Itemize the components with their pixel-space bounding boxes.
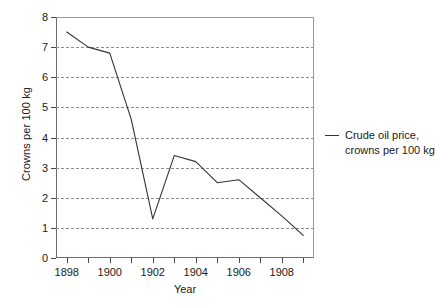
x-tick-label-1906: 1906 xyxy=(227,266,251,278)
chart-legend: Crude oil price, crowns per 100 kg xyxy=(325,128,435,158)
y-tick-label-8: 8 xyxy=(42,11,48,23)
legend-line-swatch xyxy=(325,135,339,136)
x-tick-label-1900: 1900 xyxy=(98,266,122,278)
x-tick-1906 xyxy=(239,258,240,263)
y-tick-label-4: 4 xyxy=(42,132,48,144)
x-tick-1903 xyxy=(174,258,175,263)
y-axis-title: Crowns per 100 kg xyxy=(20,59,32,209)
y-tick-0 xyxy=(51,258,56,259)
y-tick-label-1: 1 xyxy=(42,222,48,234)
y-tick-label-3: 3 xyxy=(42,162,48,174)
y-tick-label-0: 0 xyxy=(42,252,48,264)
x-tick-1904 xyxy=(196,258,197,263)
x-tick-1900 xyxy=(110,258,111,263)
x-tick-1908 xyxy=(282,258,283,263)
x-tick-1902 xyxy=(153,258,154,263)
y-tick-label-2: 2 xyxy=(42,192,48,204)
x-tick-label-1902: 1902 xyxy=(141,266,165,278)
x-tick-label-1898: 1898 xyxy=(55,266,79,278)
plot-area: 012345678 189819001902190419061908 xyxy=(56,17,314,258)
x-tick-1907 xyxy=(260,258,261,263)
x-tick-label-1908: 1908 xyxy=(270,266,294,278)
x-tick-1909 xyxy=(303,258,304,263)
series-crude-oil-price xyxy=(56,17,314,258)
y-tick-label-6: 6 xyxy=(42,71,48,83)
legend-label-line2: crowns per 100 kg xyxy=(345,144,435,156)
y-tick-label-7: 7 xyxy=(42,41,48,53)
y-tick-label-5: 5 xyxy=(42,101,48,113)
x-tick-1901 xyxy=(131,258,132,263)
x-tick-1898 xyxy=(67,258,68,263)
x-tick-1899 xyxy=(88,258,89,263)
legend-label-line1: Crude oil price, xyxy=(345,129,419,141)
legend-label: Crude oil price, crowns per 100 kg xyxy=(345,128,435,158)
x-axis-title: Year xyxy=(56,283,314,295)
x-tick-1905 xyxy=(217,258,218,263)
x-tick-label-1904: 1904 xyxy=(184,266,208,278)
